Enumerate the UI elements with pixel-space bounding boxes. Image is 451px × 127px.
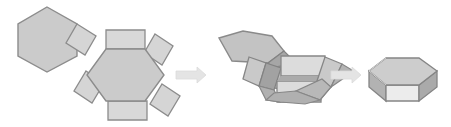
prism-front-center-face [386,85,419,101]
figure-canvas: Folding a hexagonal prism net into a sol… [0,0,451,127]
flap-top [106,30,145,49]
side-rect-back [281,56,325,76]
stage-1-flat-net [18,7,180,120]
flap-bottom [108,101,147,120]
arrow-right-icon [176,67,206,83]
folding-diagram-svg [0,0,451,127]
arrow-stage1-to-stage2 [176,67,206,83]
stage-3-solid-prism [369,58,437,101]
stage-2-partially-folded [219,31,352,104]
